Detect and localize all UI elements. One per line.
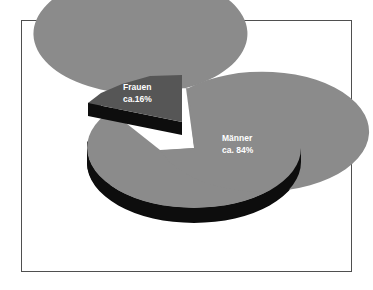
frauen-label-name: Frauen (123, 82, 151, 92)
frauen-label-value: ca.16% (123, 94, 152, 104)
pie-chart-3d: Frauen ca.16% Männer ca. 84% (0, 0, 373, 290)
maenner-label-name: Männer (222, 133, 253, 143)
pie-chart-svg: Frauen ca.16% Männer ca. 84% (0, 0, 373, 290)
chart-canvas: Frauen ca.16% Männer ca. 84% (0, 0, 373, 290)
maenner-label-value: ca. 84% (222, 145, 254, 155)
